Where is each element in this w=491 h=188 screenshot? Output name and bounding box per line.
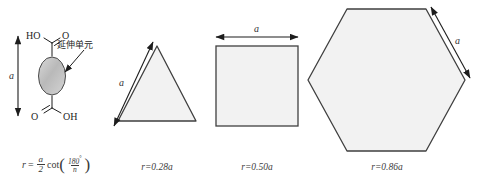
- formula-open-paren: (: [59, 156, 65, 171]
- formula-inner-numerator: 180°: [66, 155, 84, 165]
- atom-label-bottom-right: OH: [63, 112, 77, 122]
- triangle-shape: [118, 46, 196, 121]
- formula-close-paren: ): [85, 156, 91, 171]
- formula-frac-denominator: 2: [37, 164, 46, 174]
- hexagon-caption: r=0.86a: [347, 163, 427, 173]
- extension-unit-pointer-arrow: [65, 50, 84, 72]
- hexagon-shape-group: [308, 7, 470, 151]
- hexagon-side-label: a: [455, 36, 460, 46]
- extension-unit-label: 延伸单元: [57, 41, 93, 50]
- formula-inner-denominator: n: [71, 165, 79, 174]
- triangle-caption: r=0.28a: [117, 163, 197, 173]
- square-shape: [216, 46, 298, 126]
- bottom-carboxyl-bonds: [42, 96, 61, 113]
- triangle-side-label: a: [119, 78, 124, 88]
- square-shape-group: [216, 37, 298, 126]
- triangle-shape-group: [114, 42, 196, 126]
- formula-frac-numerator: a: [37, 155, 46, 164]
- r-formula: r = a 2 cot ( 180° n ): [22, 155, 90, 174]
- formula-function: cot: [46, 160, 59, 170]
- extension-unit-ellipse: [39, 57, 66, 95]
- degree-symbol: °: [79, 155, 81, 161]
- formula-equals: =: [26, 160, 36, 170]
- molecule-dimension-label: a: [9, 71, 14, 81]
- formula-fraction-a-over-2: a 2: [37, 155, 46, 174]
- hexagon-shape: [308, 9, 465, 151]
- atom-label-bottom-left: O: [31, 112, 38, 122]
- formula-inner-fraction: 180° n: [66, 155, 84, 174]
- square-side-label: a: [254, 24, 259, 34]
- atom-label-top-left: HO: [26, 31, 40, 41]
- square-caption: r=0.50a: [217, 163, 297, 173]
